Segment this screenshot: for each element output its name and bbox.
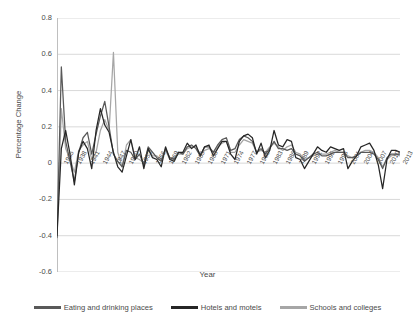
legend-item-label: Schools and colleges	[310, 303, 382, 312]
y-axis-tick-label: 0	[48, 159, 52, 167]
y-axis-title: Percentage Change	[14, 70, 23, 180]
x-axis-tick-labels: 1935193819411944194719501953195619591962…	[57, 162, 415, 212]
legend-line-icon	[34, 306, 61, 308]
legend-line-icon	[171, 306, 198, 308]
y-axis-tick-label: -0.2	[39, 195, 52, 203]
legend-line-icon	[280, 306, 307, 308]
y-axis-tick-label: 0.2	[42, 123, 52, 131]
y-axis-tick-label: 0.8	[42, 14, 52, 22]
y-axis-tick-label: 0.6	[42, 50, 52, 58]
x-axis-tick-label: 2013	[401, 149, 414, 165]
chart-svg	[57, 18, 400, 272]
y-axis-tick-label: -0.4	[39, 232, 52, 240]
legend-item[interactable]: Hotels and motels	[171, 303, 262, 312]
legend-item[interactable]: Eating and drinking places	[34, 303, 153, 312]
chart-legend: Eating and drinking placesHotels and mot…	[0, 303, 415, 312]
x-axis-title: Year	[0, 270, 415, 279]
plot-area	[57, 18, 400, 272]
legend-item-label: Hotels and motels	[201, 303, 262, 312]
y-axis-tick-label: 0.4	[42, 87, 52, 95]
legend-item[interactable]: Schools and colleges	[280, 303, 382, 312]
legend-item-label: Eating and drinking places	[64, 303, 153, 312]
y-axis-tick-labels: 0.80.60.40.20-0.2-0.4-0.6	[20, 0, 52, 290]
chart-container: 0.80.60.40.20-0.2-0.4-0.6 Percentage Cha…	[0, 0, 415, 323]
